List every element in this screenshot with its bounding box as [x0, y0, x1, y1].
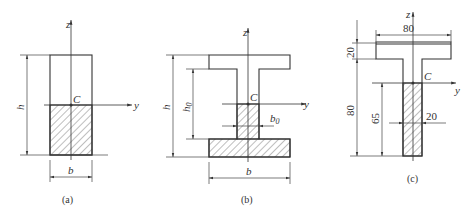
centroid-label: C: [250, 91, 258, 103]
centroid-label: C: [424, 70, 432, 82]
panel-b: z y C h h0 b0 b (b): [160, 26, 309, 206]
panel-c: z y C 80 20 80 65 20 (c): [344, 8, 460, 185]
panel-a: z y C h b (a): [14, 18, 139, 206]
height-label: h: [160, 104, 172, 110]
height-label: h: [14, 104, 26, 110]
z-label: z: [65, 18, 71, 30]
web-width-label: b0: [270, 112, 280, 126]
flange-thickness-label: 20: [344, 47, 356, 59]
width-label: b: [68, 164, 74, 176]
caption-a: (a): [62, 194, 73, 206]
width-label: b: [246, 165, 252, 177]
y-label: y: [133, 99, 139, 111]
centroid-point: [412, 82, 415, 85]
y-label: y: [303, 98, 309, 110]
hatched-bottom-flange: [209, 139, 290, 157]
caption-b: (b): [241, 194, 253, 206]
y-label: y: [454, 84, 460, 96]
centroid-label: C: [73, 93, 81, 105]
section-diagram: z y C h b (a) z y C h h0: [0, 0, 474, 220]
web-width-label: 20: [426, 110, 438, 122]
caption-c: (c): [407, 173, 418, 185]
hatched-web: [403, 83, 422, 156]
web-height-label: h0: [180, 103, 194, 113]
z-label: z: [405, 8, 411, 20]
centroid-distance-label: 65: [369, 113, 381, 125]
flange-width-label: 80: [403, 22, 415, 34]
z-label: z: [242, 26, 248, 38]
web-height-label: 80: [344, 105, 356, 117]
